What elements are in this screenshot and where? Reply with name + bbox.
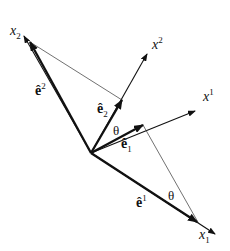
label-sub: 1 xyxy=(205,235,210,245)
label-sup: 2 xyxy=(158,35,163,45)
label-sup: 1 xyxy=(209,87,214,97)
label-e-sub1: ê1 xyxy=(121,137,132,154)
label-e-sub2: ê2 xyxy=(97,102,108,119)
angle-theta-lower: θ xyxy=(168,189,174,202)
diagram-canvas: x2 x2 x1 x1 ê2 ê2 ê1 ê1 θ θ xyxy=(0,0,230,251)
label-sub: 2 xyxy=(16,31,21,41)
label-sub: 2 xyxy=(103,109,108,119)
label-x-sub2: x2 xyxy=(10,24,21,41)
projection-line-lower xyxy=(143,125,199,224)
label-x-sup2: x2 xyxy=(152,36,163,52)
label-sup: 1 xyxy=(142,193,147,203)
vector-e-sup1 xyxy=(91,153,197,222)
label-e-sup2: ê2 xyxy=(35,82,46,98)
label-x-sup1: x1 xyxy=(203,88,214,104)
label-x-sub1: x1 xyxy=(199,228,210,245)
angle-theta-upper: θ xyxy=(113,124,119,137)
label-e-sup1: ê1 xyxy=(136,194,147,210)
label-sub: 1 xyxy=(127,144,132,154)
label-sup: 2 xyxy=(41,81,46,91)
